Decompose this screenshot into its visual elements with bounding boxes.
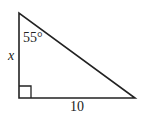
side-x-label: x — [7, 48, 15, 63]
side-10-label: 10 — [70, 99, 84, 113]
triangle-diagram: 55° x 10 — [0, 0, 144, 113]
triangle — [19, 13, 135, 98]
angle-label: 55° — [23, 30, 43, 45]
right-angle-marker — [19, 86, 31, 98]
